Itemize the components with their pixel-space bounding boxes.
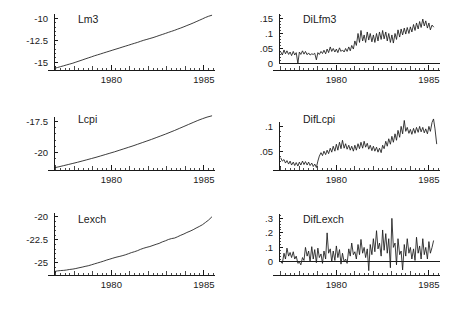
- x-tick-label: 1985: [193, 279, 214, 290]
- x-tick-label: 1985: [418, 279, 439, 290]
- panel-title: DifLexch: [303, 213, 344, 225]
- y-tick-label: -22.5: [26, 234, 48, 245]
- y-tick-label: -10: [34, 13, 48, 24]
- panel-lm3: -10-12.5-1519801985Lm3: [0, 0, 225, 100]
- y-tick-label: -12.5: [26, 35, 48, 46]
- x-tick-label: 1985: [193, 174, 214, 185]
- data-series-line: [281, 19, 434, 63]
- y-tick-label: 0: [268, 58, 273, 69]
- x-tick-label: 1985: [418, 74, 439, 85]
- x-tick-label: 1980: [326, 279, 347, 290]
- y-tick-label: .05: [260, 43, 273, 54]
- x-tick-label: 1980: [101, 279, 122, 290]
- panel-dilfm3: .15.1.05019801985DiLfm3: [225, 0, 450, 100]
- data-series-line: [281, 119, 437, 168]
- x-tick-label: 1980: [101, 174, 122, 185]
- y-tick-label: -20: [34, 211, 48, 222]
- y-tick-label: .15: [260, 13, 273, 24]
- panel-title: Lcpi: [78, 113, 97, 125]
- y-tick-label: .05: [260, 146, 273, 157]
- y-tick-label: 0: [268, 256, 273, 267]
- multi-panel-time-series-figure: -10-12.5-1519801985Lm3.15.1.05019801985D…: [0, 0, 450, 310]
- data-series-line: [281, 218, 434, 270]
- x-tick-label: 1980: [326, 74, 347, 85]
- y-tick-label: .1: [265, 121, 273, 132]
- panel-lexch: -20-22.5-2519801985Lexch: [0, 200, 225, 305]
- y-tick-label: .3: [265, 213, 273, 224]
- x-tick-label: 1985: [193, 74, 214, 85]
- y-tick-label: -17.5: [26, 116, 48, 127]
- panel-title: Lexch: [78, 213, 106, 225]
- y-tick-label: -20: [34, 147, 48, 158]
- y-tick-label: .1: [265, 242, 273, 253]
- panel-title: DiLfm3: [303, 13, 336, 25]
- x-tick-label: 1980: [326, 174, 347, 185]
- x-tick-label: 1985: [418, 174, 439, 185]
- y-tick-label: .1: [265, 28, 273, 39]
- x-tick-label: 1980: [101, 74, 122, 85]
- y-tick-label: .2: [265, 227, 273, 238]
- panel-title: Lm3: [78, 13, 99, 25]
- data-series-line: [54, 217, 211, 271]
- y-tick-label: -15: [34, 57, 48, 68]
- y-tick-label: -25: [34, 257, 48, 268]
- panel-diflcpi: .1.0519801985DifLcpi: [225, 100, 450, 200]
- panel-diflexch: .3.2.1019801985DifLexch: [225, 200, 450, 305]
- panel-lcpi: -17.5-2019801985Lcpi: [0, 100, 225, 200]
- panel-title: DifLcpi: [303, 113, 335, 125]
